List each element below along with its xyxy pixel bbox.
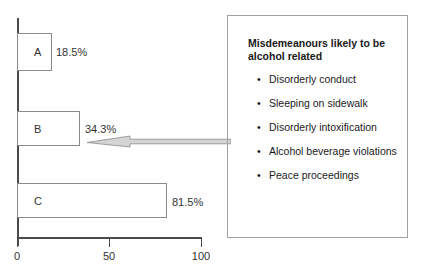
bullet-glyph: •: [257, 97, 261, 110]
list-item: • Alcohol beverage violations: [256, 145, 404, 158]
callout-arrow-icon: [85, 128, 231, 152]
list-item: • Disorderly conduct: [256, 73, 404, 86]
bar-a-value-label: 18.5%: [56, 46, 87, 58]
bar-a-category-label: A: [34, 46, 41, 58]
list-item-label: Peace proceedings: [269, 169, 359, 181]
x-axis-tick-label-100: 100: [192, 250, 210, 262]
list-item: • Sleeping on sidewalk: [256, 97, 404, 110]
bullet-glyph: •: [257, 121, 261, 134]
bar-c-category-label: C: [34, 195, 42, 207]
x-axis-tick-label-0: 0: [14, 250, 20, 262]
list-item-label: Disorderly conduct: [269, 73, 356, 85]
bar-c: C: [17, 183, 167, 218]
bar-a: A: [17, 33, 52, 71]
x-axis-tick-0: [17, 239, 18, 247]
bar-b: B: [17, 111, 80, 146]
bar-b-category-label: B: [34, 123, 41, 135]
list-item: • Disorderly intoxification: [256, 121, 404, 134]
chart-with-callout-figure: 0 50 100 A 18.5% B 34.3% C 81.5% Misdeme…: [0, 0, 422, 276]
list-item-label: Sleeping on sidewalk: [269, 97, 368, 109]
x-axis-tick-100: [201, 239, 202, 247]
x-axis-tick-50: [109, 239, 110, 247]
bullet-glyph: •: [257, 73, 261, 86]
bar-c-value-label: 81.5%: [172, 196, 203, 208]
callout-bullet-list: • Disorderly conduct • Sleeping on sidew…: [256, 73, 404, 193]
bullet-glyph: •: [257, 145, 261, 158]
callout-text-box: Misdemeanours likely to be alcohol relat…: [227, 15, 408, 238]
list-item-label: Alcohol beverage violations: [269, 145, 397, 157]
bullet-glyph: •: [257, 169, 261, 182]
list-item-label: Disorderly intoxification: [269, 121, 377, 133]
x-axis-tick-label-50: 50: [103, 250, 115, 262]
list-item: • Peace proceedings: [256, 169, 404, 182]
callout-title: Misdemeanours likely to be alcohol relat…: [248, 37, 393, 63]
